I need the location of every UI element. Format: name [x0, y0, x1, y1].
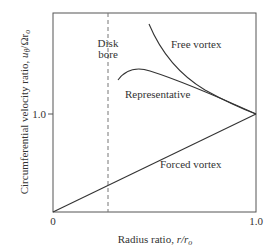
y-axis-label-sub2: o: [23, 30, 32, 34]
y-axis-label-text: Circumferential velocity ratio,: [18, 58, 30, 194]
x-axis-label-text: Radius ratio,: [118, 233, 177, 245]
series-forced-vortex: [53, 114, 256, 212]
x-axis-label-sub: o: [188, 238, 192, 247]
representative-label: Representative: [125, 88, 190, 100]
free-vortex-label: Free vortex: [171, 38, 222, 50]
chart-figure: Disk bore Free vortex Representative For…: [0, 0, 274, 252]
forced-vortex-label: Forced vortex: [160, 158, 222, 170]
y-tick-label-1: 1.0: [32, 108, 46, 120]
x-axis-label-var: r/r: [177, 233, 189, 245]
y-axis-label-mid: /Ωr: [18, 33, 30, 48]
disk-bore-label-line2: bore: [98, 48, 118, 60]
x-tick-label-1: 1.0: [249, 215, 263, 227]
y-axis-label: Circumferential velocity ratio, uθ/Ωro: [18, 30, 32, 195]
x-tick-label-0: 0: [50, 215, 56, 227]
x-axis-label: Radius ratio, r/ro: [118, 233, 193, 247]
plot-frame: [53, 13, 256, 212]
